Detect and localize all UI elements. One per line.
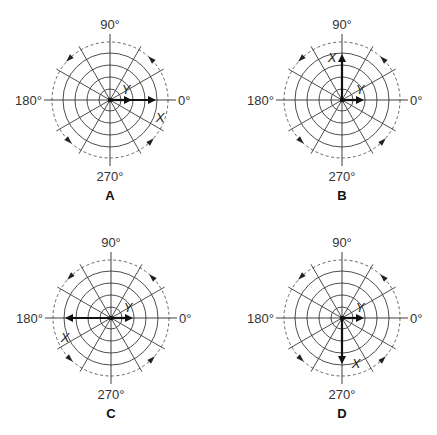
rotation-arrow-icon [380,56,387,63]
panel-label: A [105,188,115,203]
angle-label-180: 180° [16,311,43,326]
vector-label-x: X [155,110,166,125]
angle-label-0: 0° [410,311,422,326]
rotation-arrow-icon [296,354,303,361]
vector-label-x: X [327,50,338,65]
vector-arrowhead-icon [148,96,156,104]
angle-label-90: 90° [100,17,120,32]
phasor-diagram-figure: XY90°270°180°0°AXY90°270°180°0°BXY90°270… [0,0,437,435]
vector-arrowhead-icon [356,314,364,322]
rotation-arrow-icon [65,354,72,361]
angle-label-270: 270° [329,169,356,184]
panel-label: B [337,188,346,203]
angle-label-270: 270° [97,169,124,184]
vector-arrowhead-icon [65,314,73,322]
angle-label-0: 0° [179,311,191,326]
panel-b: XY90°270°180°0°B [247,17,422,203]
angle-label-270: 270° [329,387,356,402]
vector-arrowhead-icon [124,96,132,104]
rotation-arrow-icon [296,136,303,143]
rotation-arrow-icon [148,56,155,63]
angle-label-180: 180° [15,93,42,108]
vector-arrowhead-icon [356,96,364,104]
panel-c: XY90°270°180°0°C [16,235,191,421]
panels-container: XY90°270°180°0°AXY90°270°180°0°BXY90°270… [15,17,422,421]
angle-label-270: 270° [98,387,125,402]
angle-label-90: 90° [101,235,121,250]
vector-label-y: Y [124,300,134,315]
angle-label-90: 90° [332,235,352,250]
panel-d: XY90°270°180°0°D [247,235,422,421]
panel-a: XY90°270°180°0°A [15,17,190,203]
vector-arrowhead-icon [125,314,133,322]
vector-label-y: Y [356,82,366,97]
vector-arrowhead-icon [338,356,346,364]
vector-label-x: X [351,356,362,371]
rotation-arrow-icon [380,274,387,281]
angle-label-0: 0° [178,93,190,108]
angle-label-180: 180° [247,93,274,108]
panel-label: C [106,406,116,421]
angle-label-90: 90° [332,17,352,32]
vector-label-y: Y [122,82,132,97]
vector-arrowhead-icon [338,54,346,62]
vector-label-y: Y [356,300,366,315]
angle-label-0: 0° [410,93,422,108]
rotation-arrow-icon [149,274,156,281]
rotation-arrow-icon [64,136,71,143]
angle-label-180: 180° [247,311,274,326]
vector-label-x: X [60,330,71,345]
panel-label: D [337,406,346,421]
